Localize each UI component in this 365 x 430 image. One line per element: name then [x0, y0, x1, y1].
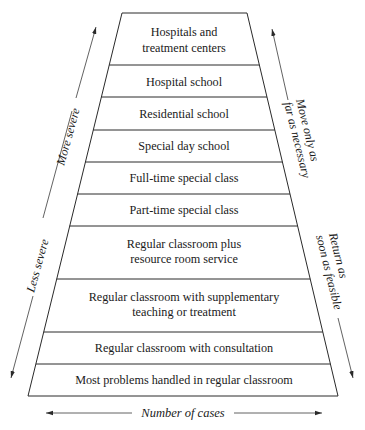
- tier-7-line-2: resource room service: [130, 252, 238, 266]
- more-severe-arrow-icon: [76, 27, 96, 98]
- tier-3: Residential school: [139, 107, 229, 121]
- left-severity-axis: More severe Less severe: [11, 27, 96, 378]
- tier-1-line-1: Hospitals and: [151, 25, 218, 39]
- return-down-arrow-icon: [338, 318, 353, 378]
- more-severe-label: More severe: [53, 106, 83, 168]
- number-of-cases-axis: Number of cases: [46, 406, 322, 420]
- tier-labels: Hospitals and treatment centers Hospital…: [75, 25, 293, 387]
- tier-10: Most problems handled in regular classro…: [75, 373, 293, 387]
- right-movement-axis: Move only as far as necessary Return as …: [272, 29, 353, 378]
- tier-8-line-1: Regular classroom with supplementary: [89, 290, 280, 304]
- number-of-cases-label: Number of cases: [140, 406, 224, 420]
- tier-5: Full-time special class: [130, 171, 239, 185]
- tier-6: Part-time special class: [130, 203, 239, 217]
- cascade-diagram: Hospitals and treatment centers Hospital…: [0, 0, 365, 430]
- tier-7-line-1: Regular classroom plus: [127, 237, 242, 251]
- tier-1-line-2: treatment centers: [142, 41, 226, 55]
- tier-4: Special day school: [138, 139, 230, 153]
- tier-9: Regular classroom with consultation: [95, 341, 273, 355]
- tier-8-line-2: teaching or treatment: [132, 305, 236, 319]
- less-severe-label: Less severe: [23, 237, 52, 295]
- move-up-arrow-icon: [272, 29, 288, 100]
- tier-2: Hospital school: [146, 75, 223, 89]
